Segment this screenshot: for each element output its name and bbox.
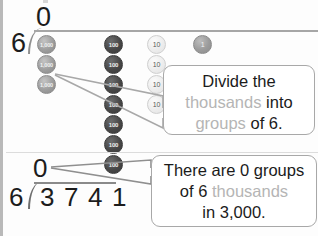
- callout-divide-text-2: into: [261, 93, 292, 111]
- worksheet-page: 0 6 1,000 1,000 1,000 100 100 100 100 10…: [0, 0, 318, 236]
- disk-column-thousands: 1,000 1,000 1,000: [37, 35, 56, 94]
- callout-divide-line-1: Divide the: [164, 71, 314, 92]
- place-value-disk: 100: [104, 95, 123, 114]
- callout-groups-gray-thousands: thousands: [212, 182, 288, 200]
- callout-divide-line-2: thousands into: [164, 92, 314, 113]
- upper-divisor-digit: 6: [11, 30, 26, 57]
- lower-dividend: 3741: [40, 184, 136, 210]
- callout-divide-gray-groups: groups: [195, 114, 245, 132]
- callout-groups-line-3: in 3,000.: [152, 202, 316, 223]
- place-value-disk: 1: [193, 35, 212, 54]
- callout-divide-text-1: Divide the: [202, 72, 275, 90]
- callout-divide-text-3: of 6.: [246, 114, 283, 132]
- dividend-digit: 3: [40, 184, 64, 210]
- dividend-digit: 7: [64, 184, 88, 210]
- disk-column-ones: 1: [193, 35, 212, 54]
- callout-divide-line-3: groups of 6.: [164, 113, 314, 134]
- place-value-disk: 1,000: [37, 55, 56, 74]
- place-value-disk: 1,000: [37, 75, 56, 94]
- lower-quotient-digit: 0: [33, 155, 47, 181]
- place-value-disk: 100: [104, 55, 123, 74]
- callout-groups-text-3: in 3,000.: [202, 203, 265, 221]
- upper-quotient-digit: 0: [36, 4, 51, 31]
- callout-groups-line-2: of 6 thousands: [152, 181, 316, 202]
- place-value-disk: 1,000: [37, 35, 56, 54]
- callout-groups-line-1: There are 0 groups: [152, 160, 316, 181]
- upper-division-bar: [34, 30, 318, 32]
- place-value-disk: 100: [104, 35, 123, 54]
- callout-zero-groups: There are 0 groups of 6 thousands in 3,0…: [151, 155, 317, 227]
- callout-divide-gray-thousands: thousands: [185, 93, 261, 111]
- dividend-digit: 1: [112, 184, 136, 210]
- dividend-digit: 4: [88, 184, 112, 210]
- lower-divisor-digit: 6: [9, 184, 23, 210]
- callout-groups-text-2: of 6: [180, 182, 212, 200]
- place-value-disk: 100: [104, 115, 123, 134]
- place-value-disk: 10: [147, 35, 166, 54]
- callout-divide-thousands: Divide the thousands into groups of 6.: [163, 65, 315, 135]
- place-value-disk: 100: [104, 75, 123, 94]
- callout-groups-text-1: There are 0 groups: [164, 161, 304, 179]
